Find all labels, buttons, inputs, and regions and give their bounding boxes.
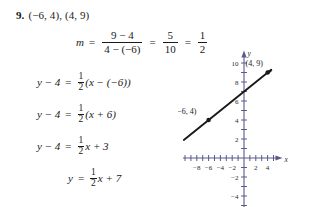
y-tick-label: 4 bbox=[235, 117, 239, 125]
plotted-line-layer bbox=[184, 70, 273, 140]
slope-fraction-1: 9 − 4 4 − (−6) bbox=[102, 30, 142, 55]
x-tick-label: −4 bbox=[217, 164, 225, 172]
step2-fraction: 1 2 bbox=[78, 104, 85, 124]
step2-right-side: (x + 6) bbox=[85, 109, 116, 120]
step4-fraction: 1 2 bbox=[90, 168, 97, 188]
step3-frac-denominator: 2 bbox=[78, 146, 85, 157]
x-tick-label: −8 bbox=[193, 164, 201, 172]
plotted-line bbox=[184, 70, 271, 140]
y-tick-label: −4 bbox=[231, 193, 239, 201]
step1-frac-denominator: 2 bbox=[78, 82, 85, 93]
data-point bbox=[206, 118, 210, 122]
y-tick-label: 2 bbox=[235, 136, 239, 144]
step1-equals: = bbox=[65, 77, 71, 88]
y-tick-label: −2 bbox=[231, 174, 239, 182]
slope-frac2-denominator: 10 bbox=[163, 42, 178, 55]
x-axis-label: x bbox=[284, 155, 289, 164]
solution-column: 9.(−6, 4), (4, 9) m = 9 − 4 4 − (−6) = 5… bbox=[0, 0, 200, 207]
slope-frac2-numerator: 5 bbox=[165, 30, 175, 42]
slope-equals-2: = bbox=[149, 37, 155, 48]
step3-frac-numerator: 1 bbox=[78, 136, 85, 146]
step1-left-side: y − 4 bbox=[37, 77, 60, 88]
y-axis-arrow bbox=[241, 51, 246, 58]
equation-step-3: y − 4 = 1 2 x + 3 bbox=[37, 136, 109, 156]
step4-frac-denominator: 2 bbox=[90, 178, 97, 189]
step4-equals: = bbox=[78, 173, 84, 184]
step2-left-side: y − 4 bbox=[37, 109, 60, 120]
step3-equals: = bbox=[65, 141, 71, 152]
problem-number: 9. bbox=[16, 9, 24, 21]
step4-right-side: x + 7 bbox=[98, 173, 121, 184]
step3-left-side: y − 4 bbox=[37, 141, 60, 152]
x-tick-label: 2 bbox=[254, 164, 258, 172]
step3-right-side: x + 3 bbox=[85, 141, 108, 152]
data-point bbox=[265, 70, 269, 74]
step1-fraction: 1 2 bbox=[78, 72, 85, 92]
step1-right-side: (x − (−6)) bbox=[85, 77, 130, 88]
equation-step-2: y − 4 = 1 2 (x + 6) bbox=[37, 104, 116, 124]
problem-points: (−6, 4), (4, 9) bbox=[28, 9, 89, 21]
worked-example-page: 9.(−6, 4), (4, 9) m = 9 − 4 4 − (−6) = 5… bbox=[0, 0, 324, 207]
equation-step-1: y − 4 = 1 2 (x − (−6)) bbox=[37, 72, 131, 92]
x-axis-arrow bbox=[276, 155, 283, 160]
slope-frac1-denominator: 4 − (−6) bbox=[102, 42, 142, 55]
graph-svg: −8−6−4−224246810−2−4xy(−6, 4)(4, 9) bbox=[178, 46, 324, 207]
ticks-layer bbox=[185, 63, 274, 206]
step1-frac-numerator: 1 bbox=[78, 72, 85, 82]
step2-frac-denominator: 2 bbox=[78, 114, 85, 125]
y-axis-label: y bbox=[247, 49, 252, 58]
x-tick-label: −6 bbox=[205, 164, 213, 172]
step2-frac-numerator: 1 bbox=[78, 104, 85, 114]
step3-fraction: 1 2 bbox=[78, 136, 85, 156]
x-tick-label: −2 bbox=[228, 164, 236, 172]
step4-left-side: y bbox=[68, 173, 73, 184]
step4-frac-numerator: 1 bbox=[90, 168, 97, 178]
y-tick-label: 6 bbox=[235, 98, 239, 106]
coordinate-graph: −8−6−4−224246810−2−4xy(−6, 4)(4, 9) bbox=[178, 46, 324, 207]
data-point-label: (−6, 4) bbox=[178, 107, 197, 116]
slope-fraction-2: 5 10 bbox=[163, 30, 178, 55]
slope-frac1-numerator: 9 − 4 bbox=[109, 30, 136, 42]
equation-step-4: y = 1 2 x + 7 bbox=[68, 168, 121, 188]
slope-variable: m bbox=[76, 37, 84, 48]
x-tick-label: 4 bbox=[266, 164, 270, 172]
slope-equals-1: = bbox=[89, 37, 95, 48]
y-tick-label: 10 bbox=[232, 60, 240, 68]
step2-equals: = bbox=[65, 109, 71, 120]
labels-layer: −8−6−4−224246810−2−4xy(−6, 4)(4, 9) bbox=[178, 49, 289, 201]
slope-frac3-numerator: 1 bbox=[198, 30, 208, 42]
data-point-label: (4, 9) bbox=[246, 59, 264, 68]
y-tick-label: 8 bbox=[235, 79, 239, 87]
problem-statement: 9.(−6, 4), (4, 9) bbox=[16, 9, 89, 21]
